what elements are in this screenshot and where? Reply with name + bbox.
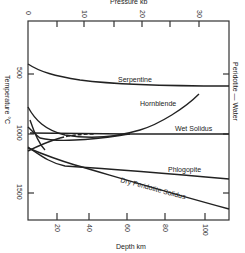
- phase-diagram: 0 10 20 30 Pressure kb 20 40 60 80 100 D…: [0, 0, 245, 253]
- top-tick-0: 0: [25, 11, 32, 15]
- serpentine-label: Serpentine: [118, 76, 152, 84]
- top-tick-10: 10: [81, 10, 88, 18]
- left-tick-1000: 1000: [16, 125, 23, 141]
- top-axis-label: Pressure kb: [110, 0, 147, 5]
- bottom-tick-80: 80: [162, 224, 169, 232]
- top-axis-ticks: [57, 21, 199, 27]
- top-tick-30: 30: [196, 10, 203, 18]
- plot-frame: [28, 21, 229, 220]
- bottom-tick-60: 60: [124, 224, 131, 232]
- hornblende-label: Hornblende: [140, 100, 176, 107]
- left-axis-label: Temperature °C: [3, 75, 11, 124]
- right-axis-label: Peridotite — Water: [232, 62, 239, 122]
- phlogopite-label: Phlogopite: [168, 166, 201, 174]
- top-tick-20: 20: [139, 10, 146, 18]
- bottom-tick-100: 100: [202, 224, 209, 236]
- left-tick-1500: 1500: [16, 184, 23, 200]
- left-tick-500: 500: [16, 67, 23, 79]
- bottom-axis-label: Depth km: [116, 243, 146, 251]
- phlogopite-curve: [28, 147, 229, 179]
- bottom-tick-20: 20: [54, 224, 61, 232]
- bottom-tick-40: 40: [86, 224, 93, 232]
- wet-solidus-label: Wet Solidus: [175, 125, 213, 132]
- dry-solidus-label: Dry Peridotite Solidus: [119, 176, 187, 201]
- bottom-axis-ticks: [57, 213, 205, 220]
